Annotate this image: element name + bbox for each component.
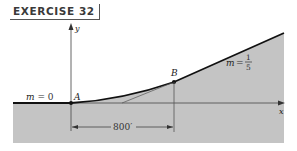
slope-left-var: m: [26, 92, 35, 102]
point-b-label: B: [170, 68, 178, 78]
ground-region: [13, 33, 284, 143]
slope-right-denominator: 5: [246, 63, 251, 72]
y-axis-arrow-icon: [69, 23, 74, 30]
slope-left-eq: = 0: [37, 92, 53, 102]
slope-right-eq: =: [236, 58, 244, 68]
slope-right-var: m: [226, 58, 235, 68]
slope-right-numerator: 1: [246, 53, 251, 62]
x-axis-label: x: [279, 107, 284, 116]
y-axis-label: y: [74, 24, 80, 33]
road-profile-diagram: y x A B 800′ m = 0 m = 1 5: [0, 0, 297, 151]
point-a: [69, 101, 73, 105]
distance-label: 800′: [113, 122, 132, 132]
point-a-label: A: [73, 92, 81, 102]
slope-left-label: m = 0: [26, 92, 54, 102]
